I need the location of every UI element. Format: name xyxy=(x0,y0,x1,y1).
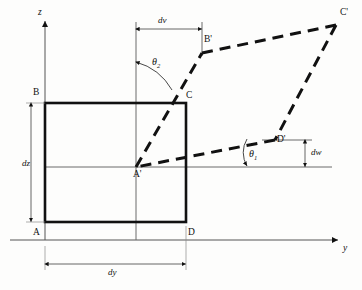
point-label-d: D xyxy=(188,228,195,238)
point-label-b-prime: B' xyxy=(204,35,212,45)
point-label-b: B xyxy=(33,88,39,98)
deformed-parallelogram-a-b-c-d-prime xyxy=(136,25,336,167)
angle-label-theta2: θ2 xyxy=(152,57,160,70)
dimension-label-dv: dv xyxy=(158,16,167,25)
edge-a-prime-b-prime xyxy=(136,53,202,167)
diagram-canvas xyxy=(0,0,362,290)
edge-b-prime-c-prime xyxy=(202,25,336,53)
axis-label-z: z xyxy=(38,8,42,18)
angle-label-theta1: θ1 xyxy=(249,149,257,162)
dimension-label-dy: dy xyxy=(108,268,117,277)
point-label-c: C xyxy=(186,91,192,101)
point-label-a: A xyxy=(33,228,40,238)
dimension-label-dz: dz xyxy=(22,159,30,168)
theta-subscript-1: 1 xyxy=(254,154,257,161)
dimension-dy xyxy=(45,226,186,270)
axis-label-y: y xyxy=(343,244,347,254)
deformation-diagram: z y B A C D A' B' C' D' dz dy dv dw θ2 θ… xyxy=(0,0,362,290)
angle-arc-theta1 xyxy=(243,139,247,166)
point-label-c-prime: C' xyxy=(340,8,348,18)
dimension-label-dw: dw xyxy=(311,148,322,157)
point-label-a-prime: A' xyxy=(133,170,142,180)
point-label-d-prime: D' xyxy=(277,135,286,145)
theta-subscript-2: 2 xyxy=(157,62,160,69)
edge-c-prime-d-prime xyxy=(275,25,336,140)
